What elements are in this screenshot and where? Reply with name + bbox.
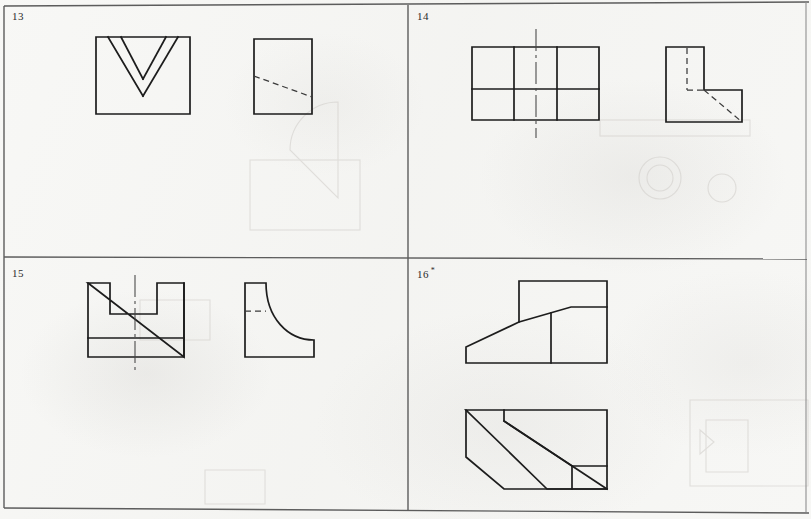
panel-16-top-view-wedge	[0, 0, 811, 519]
worksheet-sheet: 13 14 15	[0, 0, 811, 519]
